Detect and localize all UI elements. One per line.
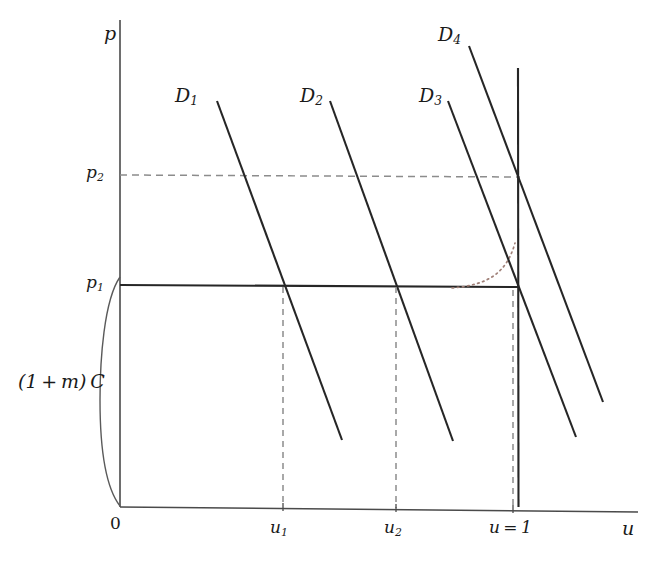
cost-bracket-label: (1 + m) C bbox=[18, 372, 105, 391]
curve-label-d3-subscript: 3 bbox=[434, 94, 442, 108]
x-tick-label-u2: u2 bbox=[384, 519, 402, 539]
y-axis-label: p bbox=[104, 24, 116, 43]
x-tick-label-u1-base: u bbox=[270, 517, 281, 537]
price-label-p2: p2 bbox=[86, 164, 104, 184]
x-tick-label-u1: u1 bbox=[270, 519, 288, 539]
curve-label-d3-base: D bbox=[419, 84, 434, 106]
demand-curve-d4 bbox=[469, 46, 603, 402]
x-tick-label-u2-base: u bbox=[384, 517, 395, 537]
demand-curve-d2 bbox=[330, 101, 453, 441]
curve-label-d2-base: D bbox=[300, 84, 315, 106]
x-axis-label: u bbox=[622, 519, 634, 538]
curve-label-d4-subscript: 4 bbox=[453, 33, 461, 47]
curve-label-d1-base: D bbox=[175, 84, 190, 106]
origin-label: 0 bbox=[110, 515, 121, 532]
x-tick-label-u1-subscript: 1 bbox=[281, 526, 288, 539]
price-label-p2-subscript: 2 bbox=[97, 171, 104, 184]
price-label-p1-subscript: 1 bbox=[97, 281, 104, 294]
economics-diagram-figure: p u 0 p2 p1 u1 u2 u = 1 D1 D2 D3 D4 (1 +… bbox=[0, 0, 672, 563]
demand-curve-d1 bbox=[217, 101, 342, 440]
p2-reference-line bbox=[120, 175, 520, 177]
curve-label-d2-subscript: 2 bbox=[315, 94, 323, 108]
x-axis bbox=[120, 507, 638, 512]
curve-label-d3: D3 bbox=[419, 86, 442, 108]
curve-label-d1: D1 bbox=[175, 86, 198, 108]
price-label-p1: p1 bbox=[86, 274, 104, 294]
demand-curve-d3 bbox=[448, 101, 576, 437]
price-label-p1-base: p bbox=[86, 272, 97, 292]
x-tick-label-u2-subscript: 2 bbox=[395, 526, 402, 539]
curve-label-d1-subscript: 1 bbox=[190, 94, 198, 108]
x-tick-label-u-equals-1: u = 1 bbox=[489, 519, 532, 536]
curve-label-d4-base: D bbox=[438, 23, 453, 45]
price-label-p2-base: p bbox=[86, 162, 97, 182]
curve-label-d4: D4 bbox=[438, 25, 461, 47]
curve-label-d2: D2 bbox=[300, 86, 323, 108]
